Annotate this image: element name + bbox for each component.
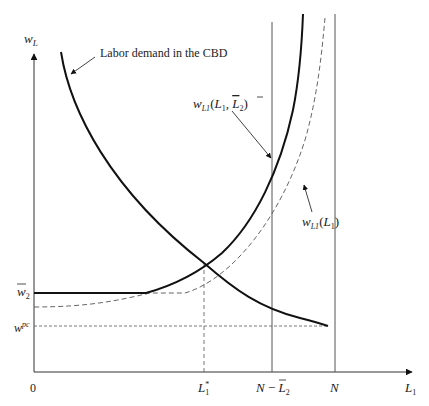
supply-free-label: wL1(L1): [302, 214, 339, 231]
supply-free-pointer: [304, 185, 312, 212]
labor-demand-label: Labor demand in the CBD: [100, 46, 228, 60]
l1star-tick: L*1: [197, 380, 209, 397]
n-minus-l2bar-tick: N − L2: [255, 380, 290, 397]
origin-label: 0: [30, 381, 36, 395]
wpc-tick: wpc: [14, 320, 30, 335]
labor-market-diagram: wL Labor demand in the CBD wL1(L1, L2) w…: [0, 0, 429, 406]
supply-curve-free: [34, 18, 325, 307]
n-tick: N: [329, 380, 340, 395]
supply-l2bar-pointer: [232, 111, 271, 158]
w2bar-tick: w2: [17, 284, 30, 301]
axes: [34, 54, 412, 372]
supply-l2bar-label: wL1(L1, L2): [193, 96, 248, 113]
x-axis-label: L1: [404, 380, 416, 397]
y-axis-label: wL: [24, 31, 38, 48]
labor-demand-pointer: [71, 57, 95, 74]
labor-demand-curve: [61, 52, 328, 326]
